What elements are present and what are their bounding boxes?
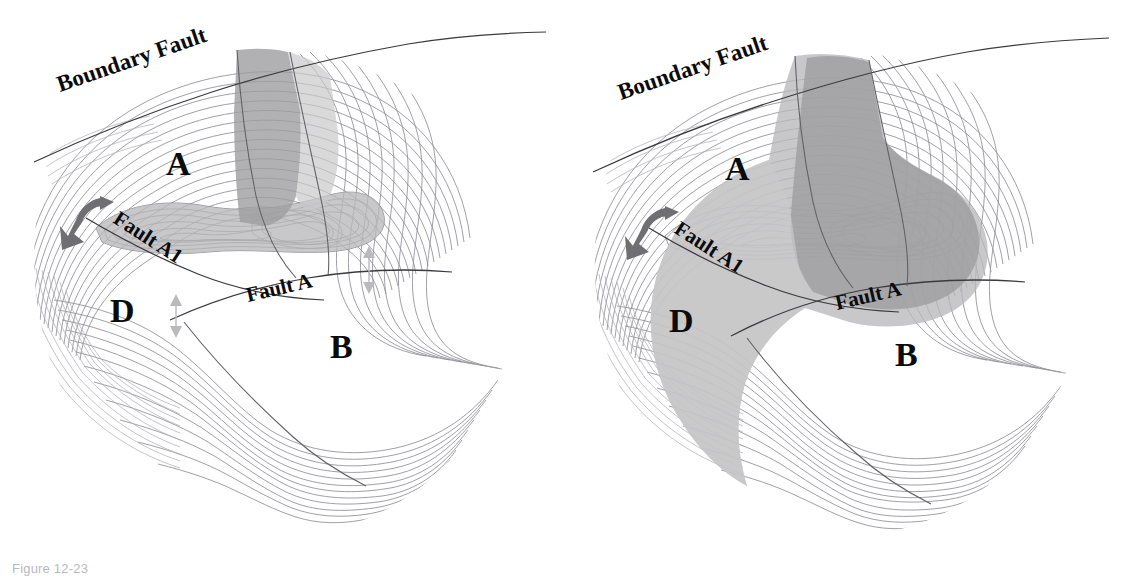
contour-group-block-b (54, 300, 498, 523)
label-block-d-left: D (110, 292, 135, 329)
map-canvas-left: Boundary Fault Fault A1 Fault A A D B (0, 0, 570, 548)
label-boundary-fault-right: Boundary Fault (614, 30, 770, 105)
label-block-a-right: A (725, 150, 750, 187)
label-block-d-right: D (669, 302, 694, 339)
contour-group-upper-left (40, 116, 162, 184)
map-canvas-right: Boundary Fault Fault A1 Fault A A D B (569, 0, 1139, 548)
label-boundary-fault-left: Boundary Fault (53, 22, 209, 97)
contour-group-block-d (12, 268, 180, 468)
figure-root: Boundary Fault Fault A1 Fault A A D B (0, 0, 1139, 580)
structure-map-panel-left: Boundary Fault Fault A1 Fault A A D B (0, 0, 570, 548)
contour-group-upper-left-right (599, 124, 721, 192)
figure-caption: Figure 12-23 (12, 561, 88, 580)
label-block-a-left: A (166, 145, 191, 182)
structure-map-panel-right: Boundary Fault Fault A1 Fault A A D B (569, 0, 1139, 548)
label-block-b-left: B (330, 328, 353, 365)
shaded-closure-right (651, 54, 988, 486)
label-block-b-right: B (895, 336, 918, 373)
label-fault-a-left: Fault A (244, 268, 316, 307)
